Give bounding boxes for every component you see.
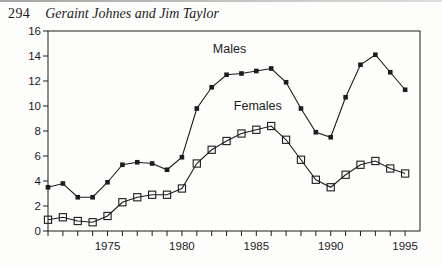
x-axis-tick-label: 1980 (169, 240, 195, 252)
y-axis-tick-label: 0 (35, 225, 41, 237)
males-marker-filled-square (284, 80, 289, 85)
males-marker-filled-square (254, 69, 259, 74)
series-label-males: Males (213, 42, 246, 56)
males-marker-filled-square (328, 135, 333, 140)
males-marker-filled-square (388, 70, 393, 75)
males-marker-filled-square (150, 161, 155, 166)
males-marker-filled-square (358, 62, 363, 67)
book-page: 294Geraint Johnes and Jim Taylor 0246810… (0, 0, 442, 266)
y-axis-tick-label: 16 (28, 25, 41, 37)
y-axis-tick-label: 10 (28, 100, 41, 112)
y-axis-tick-label: 8 (35, 125, 41, 137)
females-line (48, 126, 405, 222)
males-marker-filled-square (373, 52, 378, 57)
males-marker-filled-square (209, 85, 214, 90)
males-marker-filled-square (105, 180, 110, 185)
series-label-females: Females (234, 99, 282, 113)
males-marker-filled-square (239, 71, 244, 76)
y-axis-tick-label: 6 (35, 150, 41, 162)
males-marker-filled-square (135, 160, 140, 165)
males-marker-filled-square (165, 167, 170, 172)
plot-frame (48, 31, 420, 231)
y-axis-tick-label: 14 (28, 50, 41, 62)
x-axis-tick-label: 1995 (392, 240, 418, 252)
males-marker-filled-square (61, 181, 66, 186)
x-axis-tick-label: 1985 (244, 240, 270, 252)
males-marker-filled-square (224, 72, 229, 77)
males-marker-filled-square (46, 185, 51, 190)
males-marker-filled-square (403, 87, 408, 92)
males-marker-filled-square (90, 195, 95, 200)
males-marker-filled-square (314, 130, 319, 135)
males-marker-filled-square (343, 95, 348, 100)
x-axis-tick-label: 1990 (318, 240, 344, 252)
x-axis-tick-label: 1975 (95, 240, 121, 252)
y-axis-tick-label: 2 (35, 200, 41, 212)
males-marker-filled-square (120, 162, 125, 167)
males-marker-filled-square (195, 106, 200, 111)
y-axis-tick-label: 12 (28, 75, 41, 87)
y-axis-tick-label: 4 (35, 175, 42, 187)
unemployment-rate-line-chart: 024681012141619751980198519901995MalesFe… (0, 0, 442, 266)
males-marker-filled-square (269, 66, 274, 71)
males-marker-filled-square (180, 155, 185, 160)
males-marker-filled-square (299, 106, 304, 111)
males-marker-filled-square (75, 195, 80, 200)
